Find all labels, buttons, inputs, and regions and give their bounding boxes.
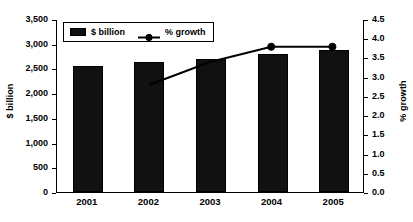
x-axis-label: 2004 bbox=[261, 196, 282, 207]
right-tick-label: 2.0 bbox=[372, 111, 385, 120]
chart-container: $ billion % growth 05001,0001,5002,0002,… bbox=[0, 0, 413, 222]
right-tick-label: 1.0 bbox=[372, 150, 385, 159]
left-tick-label: 0 bbox=[43, 188, 48, 197]
plot-area bbox=[56, 20, 364, 193]
right-tick-mark bbox=[364, 193, 368, 194]
right-axis-title: % growth bbox=[398, 73, 408, 129]
x-axis-category-labels: 20012002200320042005 bbox=[56, 196, 364, 216]
line-marker bbox=[268, 43, 275, 50]
legend-line-circle-icon bbox=[138, 28, 160, 37]
left-axis-ticks: 05001,0001,5002,0002,5003,0003,500 bbox=[18, 14, 52, 199]
legend-item-line-label: % growth bbox=[165, 27, 206, 37]
legend-item-bar: $ billion bbox=[70, 27, 125, 37]
right-tick-label: 1.5 bbox=[372, 130, 385, 139]
right-tick-mark bbox=[364, 78, 368, 79]
right-tick-label: 4.0 bbox=[372, 34, 385, 43]
right-tick-mark bbox=[364, 135, 368, 136]
right-tick-mark bbox=[364, 174, 368, 175]
left-tick-label: 2,000 bbox=[25, 89, 48, 98]
legend-item-line: % growth bbox=[138, 27, 206, 37]
left-tick-label: 500 bbox=[33, 163, 48, 172]
left-tick-label: 1,000 bbox=[25, 139, 48, 148]
right-tick-mark bbox=[364, 20, 368, 21]
legend-item-bar-label: $ billion bbox=[91, 27, 125, 37]
line-path bbox=[149, 47, 333, 85]
legend-bar-swatch-icon bbox=[70, 28, 86, 36]
right-axis-ticks: 0.00.51.01.52.02.53.03.54.04.5 bbox=[364, 14, 398, 199]
line-series-layer bbox=[57, 20, 363, 192]
right-tick-label: 0.0 bbox=[372, 188, 385, 197]
right-tick-mark bbox=[364, 155, 368, 156]
x-axis-label: 2005 bbox=[323, 196, 344, 207]
right-tick-label: 0.5 bbox=[372, 169, 385, 178]
right-tick-label: 3.5 bbox=[372, 53, 385, 62]
left-tick-label: 3,000 bbox=[25, 40, 48, 49]
right-tick-mark bbox=[364, 116, 368, 117]
left-tick-label: 1,500 bbox=[25, 114, 48, 123]
right-tick-mark bbox=[364, 58, 368, 59]
right-tick-mark bbox=[364, 97, 368, 98]
x-axis-label: 2001 bbox=[76, 196, 97, 207]
left-tick-label: 3,500 bbox=[25, 15, 48, 24]
plot-inner bbox=[57, 20, 363, 192]
left-tick-label: 2,500 bbox=[25, 64, 48, 73]
right-tick-label: 4.5 bbox=[372, 15, 385, 24]
right-tick-mark bbox=[364, 39, 368, 40]
x-axis-label: 2003 bbox=[199, 196, 220, 207]
right-tick-label: 2.5 bbox=[372, 92, 385, 101]
left-tick-mark bbox=[52, 193, 56, 194]
line-marker bbox=[329, 43, 336, 50]
left-axis-title: $ billion bbox=[5, 73, 15, 129]
right-tick-label: 3.0 bbox=[372, 73, 385, 82]
x-axis-label: 2002 bbox=[138, 196, 159, 207]
chart-legend: $ billion % growth bbox=[63, 22, 214, 42]
